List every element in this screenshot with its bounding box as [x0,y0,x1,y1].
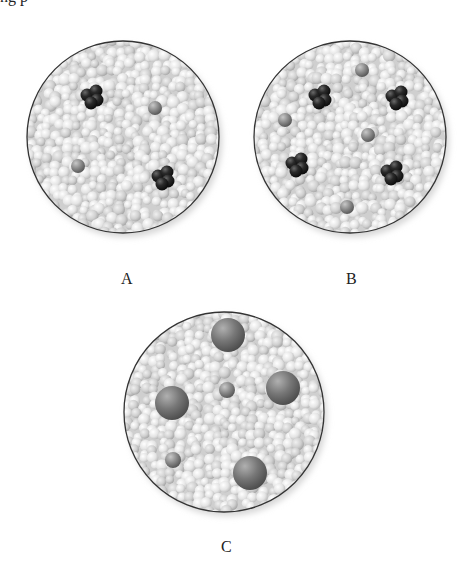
panel-c [109,298,334,522]
grey-particle [278,113,292,127]
grey-particle [165,452,181,468]
panel-label-c: C [221,538,232,556]
grey-particle [148,101,162,115]
panel-label-a: A [121,270,133,288]
panel-b [239,27,455,243]
panel-a [13,27,228,242]
large-solute-sphere [211,318,245,352]
solvent-beads [13,27,228,242]
grey-particle [71,159,85,173]
grey-particle [355,63,369,77]
large-solute-sphere [266,371,300,405]
grey-particle [219,382,235,398]
grey-particle [340,200,354,214]
large-solute-sphere [155,386,189,420]
large-solute-sphere [233,456,267,490]
particle-diagram [0,0,457,570]
panel-label-b: B [346,270,357,288]
grey-particle [361,128,375,142]
